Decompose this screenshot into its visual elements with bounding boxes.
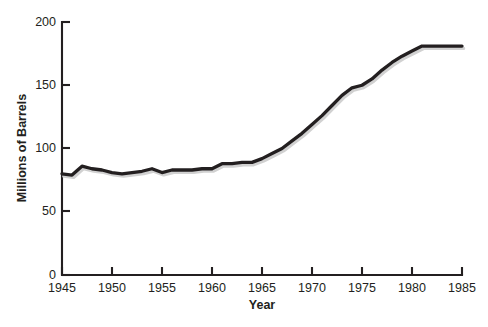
x-tick-label: 1955 <box>148 281 176 295</box>
x-tick-label: 1945 <box>48 281 76 295</box>
x-axis-ticks <box>62 267 462 275</box>
y-tick-label: 100 <box>35 141 56 155</box>
data-series-line <box>62 46 462 175</box>
x-tick-label: 1980 <box>398 281 426 295</box>
x-tick-label: 1960 <box>198 281 226 295</box>
y-axis-ticks <box>62 22 70 275</box>
y-tick-label: 200 <box>35 15 56 29</box>
x-axis-title: Year <box>249 298 276 312</box>
x-tick-label: 1970 <box>298 281 326 295</box>
line-chart-plot: 200 150 100 50 0 1945 1950 1955 1960 196… <box>0 0 488 327</box>
y-tick-label: 0 <box>49 268 56 282</box>
y-tick-label: 150 <box>35 78 56 92</box>
x-axis-tick-labels: 1945 1950 1955 1960 1965 1970 1975 1980 … <box>48 281 476 295</box>
chart-figure: 200 150 100 50 0 1945 1950 1955 1960 196… <box>0 0 488 327</box>
x-tick-label: 1975 <box>348 281 376 295</box>
x-tick-label: 1985 <box>448 281 476 295</box>
y-axis-tick-labels: 200 150 100 50 0 <box>35 15 56 282</box>
y-axis-title: Millions of Barrels <box>15 94 29 202</box>
x-tick-label: 1950 <box>98 281 126 295</box>
y-tick-label: 50 <box>42 204 56 218</box>
x-tick-label: 1965 <box>248 281 276 295</box>
